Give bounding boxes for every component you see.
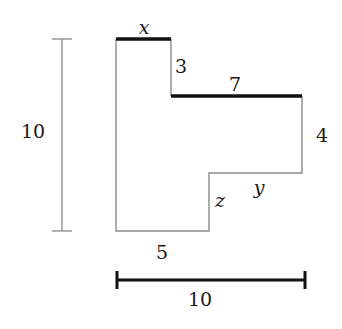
label-height-dimension-10: 10 — [21, 122, 45, 141]
label-inner-vertical-z: z — [215, 191, 225, 210]
label-middle-edge-7: 7 — [229, 75, 241, 94]
label-width-dimension-10: 10 — [188, 290, 212, 309]
height-dimension-bar — [52, 39, 72, 231]
width-dimension-bar — [117, 271, 305, 289]
label-right-edge-4: 4 — [316, 126, 328, 145]
label-bottom-edge-5: 5 — [156, 243, 168, 262]
label-top-edge-x: x — [139, 18, 150, 37]
label-lower-edge-y: y — [254, 178, 265, 197]
label-step-vertical-3: 3 — [175, 57, 187, 76]
figure-canvas — [0, 0, 342, 329]
shape-thin-edges — [116, 39, 302, 231]
